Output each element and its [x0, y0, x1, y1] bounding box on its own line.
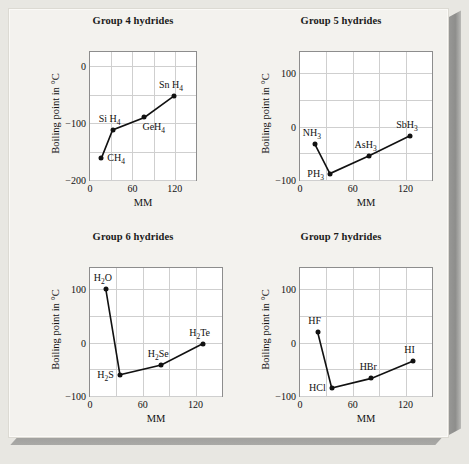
x-axis-tick-label: 0	[298, 396, 303, 410]
y-axis-tick-label: 0	[81, 337, 90, 348]
data-point-marker	[117, 372, 122, 377]
chart-title: Group 7 hydrides	[241, 231, 441, 242]
data-point-marker	[369, 376, 374, 381]
data-point-label: SbH3	[396, 119, 418, 133]
data-point-marker	[315, 330, 320, 335]
data-point-label: HI	[404, 344, 415, 355]
x-axis-label: MM	[147, 413, 166, 424]
plot-area: 0−100−200060120MMCH4Si H4GeH4Sn H4	[89, 51, 197, 181]
y-axis-tick-label: −100	[275, 175, 300, 186]
y-axis-tick-label: −100	[65, 118, 90, 129]
data-point-label: PH3	[307, 168, 324, 182]
panel-grid: Group 4 hydrides0−100−200060120MMCH4Si H…	[9, 9, 448, 437]
chart-title: Group 4 hydrides	[27, 15, 239, 26]
x-axis-tick-label: 60	[348, 180, 358, 194]
x-axis-tick-label: 0	[88, 396, 93, 410]
data-point-label: AsH3	[355, 139, 377, 153]
figure-stage: Group 4 hydrides0−100−200060120MMCH4Si H…	[0, 0, 469, 464]
y-axis-label: Boiling point in °C	[260, 66, 271, 162]
data-point-label: CH4	[107, 152, 125, 166]
data-point-marker	[312, 142, 317, 147]
data-point-label: Si H4	[99, 113, 121, 127]
y-axis-tick-label: 0	[291, 121, 300, 132]
x-axis-tick-label: 120	[398, 180, 413, 194]
data-point-marker	[159, 363, 164, 368]
data-point-marker	[408, 133, 413, 138]
data-point-marker	[110, 127, 115, 132]
data-point-marker	[327, 171, 332, 176]
x-axis-tick-label: 60	[348, 396, 358, 410]
data-point-label: Sn H4	[159, 79, 183, 93]
data-point-marker	[142, 115, 147, 120]
y-axis-tick-label: −100	[65, 391, 90, 402]
y-axis-tick-label: 100	[71, 284, 90, 295]
data-point-label: HF	[308, 315, 321, 326]
data-point-label: HCl	[309, 382, 326, 393]
y-axis-tick-label: 0	[291, 337, 300, 348]
data-point-label: H2Se	[148, 348, 169, 362]
data-point-label: H2O	[94, 272, 112, 286]
data-point-marker	[329, 386, 334, 391]
data-point-label: H2S	[97, 369, 114, 383]
chart-panel-2: Group 5 hydrides1000−100060120MMNH3PH3As…	[241, 15, 441, 225]
data-point-label: NH3	[303, 127, 321, 141]
y-axis-tick-label: 100	[281, 68, 300, 79]
data-point-marker	[172, 93, 177, 98]
data-point-label: H2Te	[189, 327, 210, 341]
x-axis-tick-label: 60	[127, 180, 137, 194]
plot-area: 1000−100060120MMHFHClHBrHI	[299, 267, 433, 397]
data-point-label: GeH4	[142, 121, 165, 135]
plot-area: 1000−100060120MMNH3PH3AsH3SbH3	[299, 51, 433, 181]
card-shadow-right	[447, 11, 461, 436]
x-axis-label: MM	[357, 197, 376, 208]
x-axis-tick-label: 120	[398, 396, 413, 410]
y-axis-tick-label: 0	[81, 61, 90, 72]
x-axis-tick-label: 120	[188, 396, 203, 410]
data-point-marker	[103, 287, 108, 292]
chart-title: Group 6 hydrides	[27, 231, 239, 242]
y-axis-label: Boiling point in °C	[260, 282, 271, 378]
data-point-marker	[200, 341, 205, 346]
plot-area: 1000−100060120MMH2OH2SH2SeH2Te	[89, 267, 223, 397]
x-axis-tick-label: 120	[167, 180, 182, 194]
x-axis-tick-label: 0	[298, 180, 303, 194]
x-axis-label: MM	[357, 413, 376, 424]
y-axis-label: Boiling point in °C	[50, 66, 61, 162]
y-axis-tick-label: −200	[65, 175, 90, 186]
data-point-label: HBr	[360, 361, 377, 372]
chart-panel-1: Group 4 hydrides0−100−200060120MMCH4Si H…	[27, 15, 239, 225]
y-axis-label: Boiling point in °C	[50, 282, 61, 378]
data-series-line	[300, 52, 432, 180]
data-point-marker	[366, 154, 371, 159]
chart-panel-4: Group 7 hydrides1000−100060120MMHFHClHBr…	[241, 231, 441, 437]
chart-title: Group 5 hydrides	[241, 15, 441, 26]
figure-card: Group 4 hydrides0−100−200060120MMCH4Si H…	[8, 8, 449, 438]
y-axis-tick-label: 100	[281, 284, 300, 295]
chart-panel-3: Group 6 hydrides1000−100060120MMH2OH2SH2…	[27, 231, 239, 437]
x-axis-tick-label: 60	[138, 396, 148, 410]
data-point-marker	[99, 156, 104, 161]
data-point-marker	[410, 359, 415, 364]
x-axis-label: MM	[134, 197, 153, 208]
y-axis-tick-label: −100	[275, 391, 300, 402]
x-axis-tick-label: 0	[88, 180, 93, 194]
